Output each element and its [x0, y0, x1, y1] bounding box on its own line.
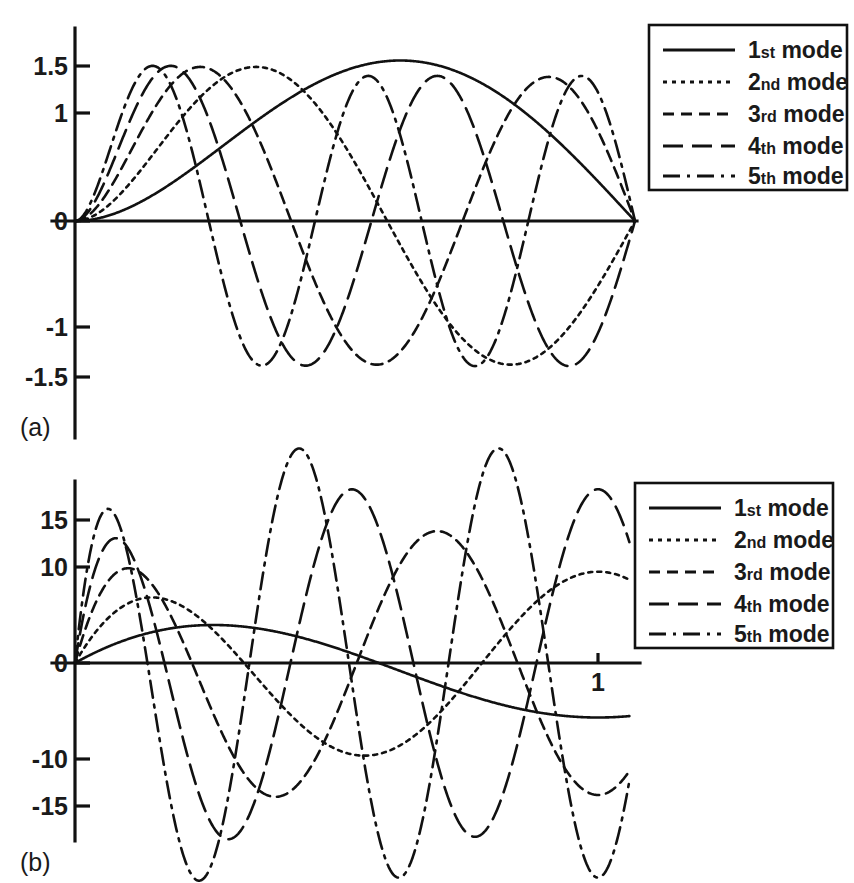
mode-shape-figure: 1.5 1 0 -1 -1.5 1st mode [0, 0, 854, 883]
ytick-label-a-1: 1 [54, 99, 68, 127]
curve-a-mode-1 [75, 61, 635, 222]
legend-a: 1st mode 2nd mode 3rd mode 4th mode 5th … [649, 25, 848, 190]
panel-b-plot: 1 15 10 0 -10 -15 [0, 441, 854, 883]
xtick-label-b-0: 1 [591, 668, 605, 696]
panel-a-plot: 1.5 1 0 -1 -1.5 1st mode [0, 0, 854, 441]
ytick-label-b-4: -15 [32, 792, 68, 820]
ytick-label-b-3: -10 [32, 745, 68, 773]
legend-b: 1st mode 2nd mode 3rd mode 4th mode 5th … [635, 483, 834, 648]
curve-a-mode-3 [75, 67, 635, 365]
ytick-label-a-4: -1.5 [25, 363, 68, 391]
curve-a-mode-5 [75, 66, 635, 366]
curve-a-mode-2 [75, 67, 635, 365]
curves-a [75, 61, 635, 367]
curve-a-mode-4 [75, 66, 635, 366]
panel-label-a: (a) [20, 413, 51, 441]
panel-label-b: (b) [20, 848, 51, 876]
ytick-label-b-0: 15 [40, 506, 68, 534]
panel-a: 1.5 1 0 -1 -1.5 1st mode [0, 0, 854, 441]
panel-b: 1 15 10 0 -10 -15 [0, 441, 854, 883]
ytick-label-a-2: 0 [54, 207, 68, 235]
ytick-label-a-3: -1 [46, 313, 68, 341]
ytick-label-b-1: 10 [40, 553, 68, 581]
ytick-label-a-0: 1.5 [33, 52, 68, 80]
ytick-label-b-2: 0 [54, 649, 68, 677]
